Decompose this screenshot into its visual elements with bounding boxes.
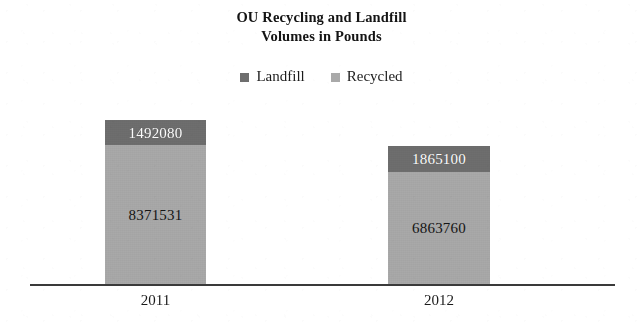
bar-segment-recycled-2011: 8371531 bbox=[105, 145, 206, 284]
axis-label-2012: 2012 bbox=[388, 291, 490, 309]
bar-segment-recycled-2012: 6863760 bbox=[388, 172, 490, 284]
bar-segment-landfill-2012: 1865100 bbox=[388, 146, 490, 172]
bar-2012: 1865100 6863760 bbox=[388, 146, 490, 284]
axis-label-2011: 2011 bbox=[105, 291, 206, 309]
bar-value-recycled-2012: 6863760 bbox=[412, 220, 466, 236]
bar-value-recycled-2011: 8371531 bbox=[129, 207, 183, 223]
bar-value-landfill-2011: 1492080 bbox=[129, 125, 183, 141]
plot-area: 1492080 8371531 1865100 6863760 2011 201… bbox=[0, 0, 643, 325]
category-axis-line bbox=[30, 284, 615, 286]
bar-value-landfill-2012: 1865100 bbox=[412, 151, 466, 167]
bar-segment-landfill-2011: 1492080 bbox=[105, 120, 206, 145]
chart-container: OU Recycling and Landfill Volumes in Pou… bbox=[0, 0, 643, 325]
bar-2011: 1492080 8371531 bbox=[105, 120, 206, 284]
